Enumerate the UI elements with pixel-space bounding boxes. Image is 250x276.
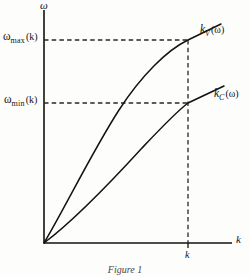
curve-label-k-c: kC(ω)	[214, 88, 239, 102]
figure-container: ω k ωmax(k) ωmin(k) k kV(ω) kC(ω) Figure…	[0, 0, 250, 276]
omega-max-base: ω	[3, 30, 11, 42]
y-axis-label: ω	[40, 0, 48, 11]
omega-min-base: ω	[4, 93, 12, 105]
k-c-argument: (ω)	[225, 88, 238, 99]
x-axis-label: k	[236, 234, 241, 245]
figure-caption: Figure 1	[0, 264, 250, 275]
y-tick-label-omega-min: ωmin(k)	[4, 94, 37, 108]
k-c-subscript: C	[219, 93, 224, 102]
y-tick-label-omega-max: ωmax(k)	[3, 31, 38, 45]
curve-label-k-v: kV(ω)	[200, 24, 224, 38]
curve-k-c	[44, 86, 224, 243]
omega-min-subscript: min	[12, 99, 25, 108]
k-v-subscript: V	[205, 29, 210, 38]
x-tick-label-k: k	[185, 250, 189, 260]
omega-max-subscript: max	[11, 36, 25, 45]
omega-max-argument: (k)	[26, 31, 38, 42]
k-v-argument: (ω)	[211, 24, 224, 35]
curve-k-v	[44, 24, 221, 243]
omega-min-argument: (k)	[26, 94, 38, 105]
